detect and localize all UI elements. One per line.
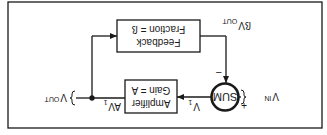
- vout-brace-icon: [70, 91, 75, 105]
- feedback-loop-diagram: SUM Amplifier Gain = A Feedback Fraction…: [0, 0, 327, 135]
- minus-sign: −: [216, 67, 222, 79]
- amplifier-title: Amplifier: [131, 98, 171, 109]
- vin-label: VIN: [264, 91, 279, 102]
- arrow-head-icon: [177, 94, 184, 100]
- feedback-title: Feedback: [136, 37, 181, 48]
- amplifier-gain: Gain = A: [131, 85, 170, 96]
- av1-label: AV1: [103, 99, 121, 112]
- feedback-fraction: Fraction = ß: [132, 24, 186, 35]
- plus-sign: +: [241, 100, 247, 111]
- sum-label: SUM: [213, 91, 237, 103]
- v1-label: V1: [188, 99, 200, 112]
- beta-vout-label: ßVOUT: [222, 18, 251, 31]
- vout-label: VOUT: [44, 92, 67, 103]
- arrow-head-icon: [110, 33, 117, 39]
- arrow-head-icon: [223, 76, 229, 83]
